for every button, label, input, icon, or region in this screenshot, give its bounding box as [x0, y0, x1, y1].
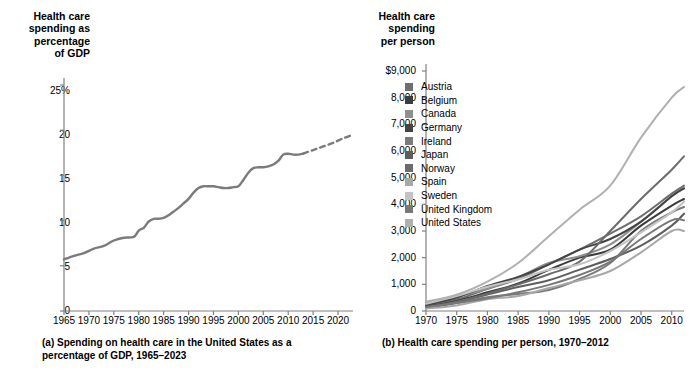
- panel-b-caption: (b) Health care spending per person, 197…: [382, 336, 692, 349]
- legend-label: Japan: [421, 149, 448, 160]
- legend-swatch-icon: [405, 219, 413, 227]
- legend-label: Austria: [421, 81, 452, 92]
- panel-b-xtick-1995: 1995: [564, 315, 596, 326]
- legend-swatch-icon: [405, 164, 413, 172]
- legend-swatch-icon: [405, 96, 413, 104]
- legend-swatch-icon: [405, 83, 413, 91]
- legend-label: Ireland: [421, 136, 452, 147]
- legend-swatch-icon: [405, 137, 413, 145]
- legend-item-spain[interactable]: Spain: [405, 175, 492, 189]
- legend-label: United States: [421, 217, 481, 228]
- panel-a-plot: [60, 0, 360, 330]
- legend-label: Germany: [421, 122, 462, 133]
- figure-root: Health care spending as percentage of GD…: [0, 0, 697, 371]
- legend-swatch-icon: [405, 151, 413, 159]
- panel-b-ytick-0: 0: [352, 305, 416, 316]
- panel-a-xtick-2020: 2020: [322, 315, 354, 326]
- panel-b-caption-index: (b): [382, 337, 395, 348]
- panel-b-xtick-2000: 2000: [594, 315, 626, 326]
- legend-label: United Kingdom: [421, 204, 492, 215]
- panel-a-caption-text: Spending on health care in the United St…: [42, 337, 292, 361]
- legend-swatch-icon: [405, 110, 413, 118]
- panel-b-xtick-1990: 1990: [533, 315, 565, 326]
- panel-a-caption: (a) Spending on health care in the Unite…: [42, 336, 342, 362]
- panel-b-xtick-1975: 1975: [441, 315, 473, 326]
- legend-item-ireland[interactable]: Ireland: [405, 134, 492, 148]
- panel-b-legend: AustriaBelgiumCanadaGermanyIrelandJapanN…: [405, 80, 492, 230]
- panel-b-xtick-2010: 2010: [656, 315, 688, 326]
- legend-item-austria[interactable]: Austria: [405, 80, 492, 94]
- legend-item-sweden[interactable]: Sweden: [405, 189, 492, 203]
- legend-swatch-icon: [405, 124, 413, 132]
- panel-b-ytick-9000: $9,000: [352, 65, 416, 76]
- panel-b-xtick-2005: 2005: [625, 315, 657, 326]
- panel-a-series-actual: [64, 154, 303, 260]
- legend-label: Norway: [421, 163, 455, 174]
- panel-a-series-projected: [303, 135, 353, 154]
- panel-b-caption-text: Health care spending per person, 1970–20…: [398, 337, 609, 348]
- legend-label: Belgium: [421, 95, 457, 106]
- legend-label: Spain: [421, 176, 447, 187]
- legend-item-norway[interactable]: Norway: [405, 162, 492, 176]
- legend-item-belgium[interactable]: Belgium: [405, 94, 492, 108]
- panel-a-caption-index: (a): [42, 337, 54, 348]
- panel-b-ytick-2000: 2,000: [352, 252, 416, 263]
- panel-a-gdp-share: Health care spending as percentage of GD…: [0, 0, 352, 371]
- legend-item-united-states[interactable]: United States: [405, 216, 492, 230]
- legend-label: Canada: [421, 108, 456, 119]
- panel-b-xtick-1985: 1985: [502, 315, 534, 326]
- legend-swatch-icon: [405, 205, 413, 213]
- legend-item-canada[interactable]: Canada: [405, 107, 492, 121]
- legend-swatch-icon: [405, 192, 413, 200]
- legend-item-united-kingdom[interactable]: United Kingdom: [405, 202, 492, 216]
- panel-b-per-person: Health care spending per person 01,0002,…: [352, 0, 697, 371]
- panel-b-xtick-1970: 1970: [410, 315, 442, 326]
- panel-b-xtick-1980: 1980: [471, 315, 503, 326]
- panel-b-ytick-1000: 1,000: [352, 278, 416, 289]
- legend-item-japan[interactable]: Japan: [405, 148, 492, 162]
- legend-swatch-icon: [405, 178, 413, 186]
- legend-label: Sweden: [421, 190, 457, 201]
- legend-item-germany[interactable]: Germany: [405, 121, 492, 135]
